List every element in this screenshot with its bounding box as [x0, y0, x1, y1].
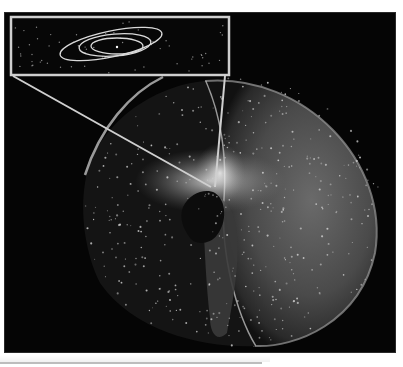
comet-dot [303, 257, 305, 259]
comet-dot [294, 279, 295, 280]
comet-dot [241, 229, 242, 230]
comet-dot [319, 188, 321, 190]
comet-dot [166, 96, 167, 97]
comet-dot [172, 319, 174, 321]
comet-dot [332, 251, 333, 252]
comet-dot [248, 231, 249, 232]
comet-dot [137, 148, 139, 150]
comet-dot [216, 317, 217, 318]
inset-star [208, 63, 209, 64]
comet-dot [248, 226, 249, 227]
comet-dot [187, 86, 189, 88]
comet-dot [352, 242, 353, 243]
comet-dot [247, 100, 248, 101]
comet-dot [229, 318, 230, 319]
comet-dot [260, 209, 261, 210]
comet-dot [164, 146, 166, 148]
comet-dot [93, 219, 94, 220]
comet-dot [317, 287, 318, 288]
comet-dot [252, 189, 254, 191]
inset-star [113, 32, 114, 33]
comet-dot [125, 258, 126, 259]
comet-dot [143, 141, 144, 142]
comet-dot [185, 322, 187, 324]
comet-dot [205, 194, 206, 195]
inset-star [48, 45, 49, 46]
comet-dot [219, 235, 220, 236]
comet-dot [166, 176, 168, 178]
comet-dot [198, 107, 199, 108]
comet-dot [116, 214, 118, 216]
comet-dot [224, 157, 225, 158]
inset-star [31, 65, 32, 66]
comet-dot [158, 113, 160, 115]
comet-dot [320, 263, 322, 265]
comet-dot [252, 153, 254, 155]
comet-dot [90, 242, 92, 244]
comet-dot [156, 189, 158, 191]
inset-star [84, 46, 85, 47]
comet-dot [371, 203, 373, 205]
comet-dot [286, 106, 287, 107]
comet-dot [350, 130, 352, 132]
comet-dot [357, 196, 359, 198]
inset-star [31, 54, 32, 55]
inset-star [165, 40, 166, 41]
inset-star [201, 55, 202, 56]
comet-dot [205, 324, 207, 326]
comet-dot [148, 207, 149, 208]
comet-dot [286, 282, 288, 284]
comet-dot [343, 274, 345, 276]
comet-dot [95, 207, 96, 208]
comet-dot [291, 165, 292, 166]
comet-dot [289, 262, 290, 263]
comet-dot [210, 318, 212, 320]
comet-dot [169, 299, 171, 301]
comet-dot [218, 312, 220, 314]
comet-dot [145, 183, 147, 185]
comet-dot [261, 147, 263, 149]
comet-dot [281, 100, 283, 102]
comet-dot [335, 211, 337, 213]
comet-dot [152, 307, 153, 308]
comet-dot [272, 299, 274, 301]
inset-star [37, 38, 38, 39]
comet-dot [330, 183, 332, 185]
comet-dot [128, 271, 130, 273]
comet-dot [377, 186, 379, 188]
comet-dot [168, 273, 170, 275]
comet-dot [320, 163, 322, 165]
comet-dot [219, 159, 221, 161]
comet-dot [288, 166, 290, 168]
comet-dot [205, 169, 207, 171]
comet-dot [204, 195, 205, 196]
inset-star [59, 42, 60, 43]
comet-dot [250, 258, 251, 259]
comet-dot [208, 332, 210, 334]
comet-dot [284, 257, 286, 259]
comet-dot [262, 172, 264, 174]
bottom-rule [0, 362, 262, 364]
inset-star [188, 70, 189, 71]
comet-dot [208, 283, 210, 285]
comet-dot [137, 154, 138, 155]
comet-dot [165, 234, 167, 236]
comet-dot [272, 207, 273, 208]
comet-dot [196, 331, 198, 333]
comet-dot [144, 257, 146, 259]
inset-star [128, 21, 129, 22]
comet-dot [223, 134, 225, 136]
comet-dot [356, 289, 357, 290]
comet-dot [185, 182, 186, 183]
comet-dot [226, 234, 228, 236]
comet-dot [322, 208, 323, 209]
comet-dot [159, 288, 161, 290]
comet-dot [270, 147, 272, 149]
comet-dot [304, 316, 306, 318]
planetary-orbits-inset [11, 17, 229, 75]
comet-dot [181, 109, 183, 111]
comet-dot [233, 268, 234, 269]
comet-dot [256, 316, 258, 318]
comet-dot [150, 322, 152, 324]
comet-dot [237, 300, 239, 302]
